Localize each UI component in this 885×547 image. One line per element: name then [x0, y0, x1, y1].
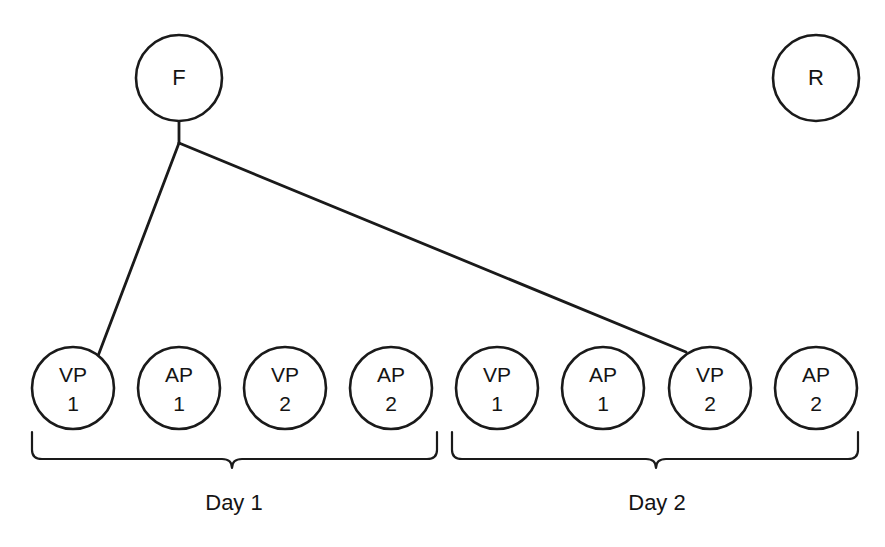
node-day1-ap2-type-label: AP	[377, 363, 405, 386]
node-day2-vp1-circle	[456, 347, 538, 429]
node-day1-vp1-circle	[32, 347, 114, 429]
day2-brace: Day 2	[452, 432, 858, 515]
node-day2-ap1[interactable]: AP1	[562, 347, 644, 429]
node-day2-ap1-circle	[562, 347, 644, 429]
node-f-label: F	[172, 65, 185, 90]
node-r[interactable]: R	[773, 35, 859, 121]
node-day2-vp2-type-label: VP	[696, 363, 724, 386]
day-brace-group: Day 1Day 2	[32, 432, 858, 515]
node-day2-ap1-index-label: 1	[597, 392, 609, 415]
node-day1-vp1[interactable]: VP1	[32, 347, 114, 429]
node-day2-ap2-type-label: AP	[802, 363, 830, 386]
node-day1-ap1[interactable]: AP1	[138, 347, 220, 429]
node-day1-ap1-index-label: 1	[173, 392, 185, 415]
node-f[interactable]: F	[136, 35, 222, 121]
connector-lines	[98, 121, 686, 356]
node-day2-vp1-type-label: VP	[483, 363, 511, 386]
node-day1-ap1-type-label: AP	[165, 363, 193, 386]
node-link-diagram: F R VP1AP1VP2AP2VP1AP1VP2AP2 Day 1Day 2	[0, 0, 885, 547]
day2-brace-label: Day 2	[628, 490, 685, 515]
node-day2-vp1[interactable]: VP1	[456, 347, 538, 429]
node-day2-ap2-index-label: 2	[810, 392, 822, 415]
diagram-canvas: F R VP1AP1VP2AP2VP1AP1VP2AP2 Day 1Day 2	[0, 0, 885, 547]
node-day1-vp2-type-label: VP	[271, 363, 299, 386]
node-day1-ap2-circle	[350, 347, 432, 429]
node-day2-vp2-index-label: 2	[704, 392, 716, 415]
node-r-label: R	[808, 65, 824, 90]
node-day2-ap1-type-label: AP	[589, 363, 617, 386]
node-day2-ap2-circle	[775, 347, 857, 429]
day1-brace-label: Day 1	[205, 490, 262, 515]
connector-f-to-day1-vp1	[98, 143, 179, 356]
node-day1-ap2-index-label: 2	[385, 392, 397, 415]
node-day1-vp2[interactable]: VP2	[244, 347, 326, 429]
day1-brace: Day 1	[32, 432, 437, 515]
top-node-group: F R	[136, 35, 859, 121]
day1-brace-path	[32, 432, 437, 468]
node-day1-ap1-circle	[138, 347, 220, 429]
node-day1-vp1-type-label: VP	[59, 363, 87, 386]
node-day2-ap2[interactable]: AP2	[775, 347, 857, 429]
node-day1-ap2[interactable]: AP2	[350, 347, 432, 429]
node-day2-vp2[interactable]: VP2	[669, 347, 751, 429]
node-day2-vp1-index-label: 1	[491, 392, 503, 415]
node-day1-vp1-index-label: 1	[67, 392, 79, 415]
node-day2-vp2-circle	[669, 347, 751, 429]
node-day1-vp2-circle	[244, 347, 326, 429]
node-day1-vp2-index-label: 2	[279, 392, 291, 415]
bottom-node-group: VP1AP1VP2AP2VP1AP1VP2AP2	[32, 347, 857, 429]
connector-f-to-day2-vp2	[179, 143, 686, 352]
day2-brace-path	[452, 432, 858, 468]
